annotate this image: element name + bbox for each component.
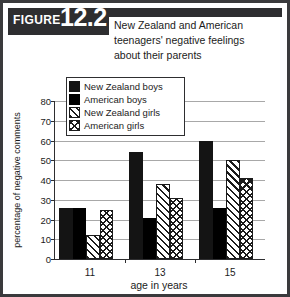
x-axis-tick-label: 15 <box>224 267 235 278</box>
bar <box>143 218 157 259</box>
y-axis-tick <box>51 180 55 181</box>
legend-label: New Zealand boys <box>84 81 163 92</box>
legend-label: New Zealand girls <box>84 107 160 118</box>
x-axis-tick-label: 13 <box>154 267 165 278</box>
figure-badge: FIGURE 12.2 <box>8 8 109 35</box>
figure-header: FIGURE 12.2 New Zealand and American tee… <box>8 8 282 65</box>
y-axis-tick-label: 70 <box>40 115 51 126</box>
y-axis-tick <box>51 259 55 260</box>
y-axis-tick <box>51 141 55 142</box>
legend-item: American girls <box>69 119 181 132</box>
bar <box>59 208 73 259</box>
y-axis-tick-label: 0 <box>46 254 51 265</box>
y-axis-tick-label: 60 <box>40 135 51 146</box>
header-rule <box>109 8 282 17</box>
bar <box>156 184 170 259</box>
figure-title-line: teenagers' negative feelings <box>114 33 282 48</box>
y-axis-tick-label: 80 <box>40 96 51 107</box>
figure-badge-number: 12.2 <box>60 8 107 30</box>
legend-label: American boys <box>84 94 147 105</box>
bar <box>226 160 240 259</box>
bar <box>86 235 100 259</box>
legend-label: American girls <box>84 120 144 131</box>
bar <box>73 208 87 259</box>
legend-swatch <box>69 81 80 92</box>
chart-area: percentage of negative comments 01020304… <box>8 65 282 289</box>
legend-swatch <box>69 107 80 118</box>
y-axis-tick-label: 40 <box>40 175 51 186</box>
figure-title-line: New Zealand and American <box>114 18 282 33</box>
figure-title: New Zealand and American teenagers' nega… <box>114 18 282 63</box>
x-axis-tick-label: 11 <box>85 267 95 278</box>
y-axis-tick <box>51 101 55 102</box>
gridline <box>55 141 265 142</box>
bar <box>100 210 114 259</box>
legend-swatch <box>69 94 80 105</box>
bar <box>213 208 227 259</box>
chart-legend: New Zealand boysAmerican boysNew Zealand… <box>66 77 185 136</box>
y-axis-tick-label: 20 <box>40 214 51 225</box>
y-axis-tick <box>51 239 55 240</box>
y-axis-tick <box>51 220 55 221</box>
y-axis-tick-label: 50 <box>40 155 51 166</box>
legend-item: New Zealand girls <box>69 106 181 119</box>
x-axis-tick <box>195 259 196 263</box>
y-axis-tick-label: 30 <box>40 194 51 205</box>
legend-item: New Zealand boys <box>69 80 181 93</box>
figure-container: FIGURE 12.2 New Zealand and American tee… <box>0 0 290 297</box>
y-axis-tick-label: 10 <box>40 234 51 245</box>
bar <box>170 198 184 259</box>
bar <box>240 178 254 259</box>
x-axis-title: age in years <box>54 279 264 291</box>
y-axis-tick <box>51 200 55 201</box>
legend-swatch <box>69 120 80 131</box>
x-axis-tick <box>125 259 126 263</box>
bar <box>129 152 143 259</box>
bar <box>199 141 213 260</box>
y-axis-tick <box>51 160 55 161</box>
y-axis-title: percentage of negative comments <box>10 101 24 259</box>
legend-item: American boys <box>69 93 181 106</box>
y-axis-tick <box>51 121 55 122</box>
figure-title-line: about their parents <box>114 48 282 63</box>
figure-badge-word: FIGURE <box>13 14 61 26</box>
